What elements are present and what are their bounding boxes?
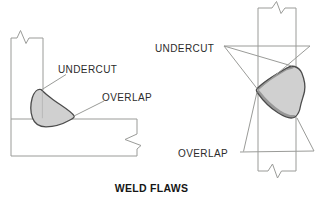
left-horizontal-plate-outline bbox=[11, 119, 141, 156]
right-undercut-leader-to-apex-left bbox=[224, 46, 257, 89]
right-weld-bead-fill bbox=[256, 66, 305, 118]
left-overlap-leader-line bbox=[74, 101, 104, 116]
left-overlap-label: OVERLAP bbox=[102, 92, 152, 103]
right-overlap-leader-horizontal bbox=[240, 151, 314, 152]
left-undercut-label: UNDERCUT bbox=[58, 64, 117, 75]
right-overlap-label: OVERLAP bbox=[178, 148, 228, 159]
left-weld-bead bbox=[31, 89, 74, 126]
right-plate-bottom-break bbox=[258, 164, 296, 178]
left-figure: UNDERCUT OVERLAP bbox=[11, 31, 152, 157]
right-overlap-leader-to-apex bbox=[244, 92, 258, 152]
left-undercut-leader-line bbox=[42, 75, 66, 90]
weld-flaws-diagram: UNDERCUT OVERLAP UNDERCUT bbox=[0, 0, 320, 198]
right-plate-top-break bbox=[258, 2, 296, 14]
diagram-title: WELD FLAWS bbox=[115, 182, 189, 194]
right-overlap-leader-to-toe bbox=[297, 118, 314, 151]
right-figure: UNDERCUT OVERLAP bbox=[155, 2, 314, 179]
diagram-canvas: UNDERCUT OVERLAP UNDERCUT bbox=[0, 0, 320, 198]
right-undercut-label: UNDERCUT bbox=[155, 43, 214, 54]
